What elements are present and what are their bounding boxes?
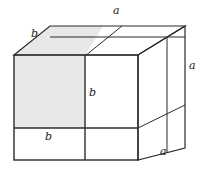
label-top-edge-a: a [113,5,120,16]
label-front-divider-b: b [89,87,96,98]
right-face [138,26,185,160]
label-front-bottom-left-b: b [45,131,52,142]
label-right-edge-a: a [189,60,196,71]
label-bottom-right-edge-a: a [160,146,167,157]
top-face-shaded-band [14,26,103,56]
label-top-left-edge-b: b [31,28,38,39]
right-face-divider [138,105,185,128]
cube-diagram: a b a b b a [0,0,206,173]
box-drawing [0,0,206,173]
front-face-shaded-square [14,55,85,128]
